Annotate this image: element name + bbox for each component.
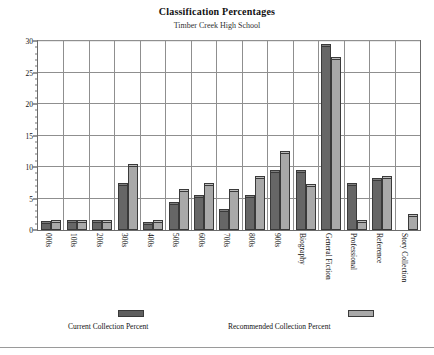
bar-front-face: [118, 185, 128, 230]
bar-front-face: [270, 172, 280, 230]
bar-front-face: [331, 59, 341, 230]
x-axis-label: 500s: [171, 233, 180, 247]
bar-current: [194, 197, 204, 230]
plot-area: [37, 40, 421, 231]
x-axis-label: 200s: [95, 233, 104, 247]
bar-current: [321, 46, 331, 230]
bar-recommended: [128, 166, 138, 230]
x-axis-label: 900s: [273, 233, 282, 247]
bar-front-face: [153, 222, 163, 230]
bar-recommended: [229, 191, 239, 230]
gridline-vertical: [267, 41, 268, 230]
chart-legend: Current Collection PercentRecommended Co…: [0, 308, 434, 336]
bar-front-face: [77, 222, 87, 230]
bar-current: [143, 224, 153, 230]
gridline-vertical: [242, 41, 243, 230]
bar-front-face: [408, 216, 418, 230]
bar-recommended: [306, 186, 316, 230]
bar-current: [372, 180, 382, 230]
bar-current: [219, 211, 229, 230]
chart-container: Classification Percentages Timber Creek …: [0, 0, 434, 355]
bar-recommended: [331, 59, 341, 230]
y-axis-tick-label: 25: [26, 68, 34, 77]
gridline-horizontal: [38, 40, 420, 41]
gridline-horizontal: [38, 166, 420, 167]
bar-current: [270, 172, 280, 230]
bar-recommended: [382, 178, 392, 230]
bar-front-face: [41, 223, 51, 230]
bar-recommended: [280, 153, 290, 230]
x-axis-label: 400s: [146, 233, 155, 247]
bar-recommended: [77, 222, 87, 230]
bar-front-face: [204, 185, 214, 230]
gridline-vertical: [140, 41, 141, 230]
bar-front-face: [372, 180, 382, 230]
x-axis-label: 700s: [222, 233, 231, 247]
bar-front-face: [321, 46, 331, 230]
gridline-horizontal: [38, 103, 420, 104]
gridline-horizontal: [38, 135, 420, 136]
bar-current: [169, 204, 179, 230]
y-axis-tick-label: 10: [26, 163, 34, 172]
bar-front-face: [102, 222, 112, 230]
bar-front-face: [357, 222, 367, 230]
bar-current: [92, 222, 102, 230]
bar-front-face: [347, 185, 357, 230]
x-axis-label: Reference: [375, 233, 384, 263]
x-axis-label: 000s: [44, 233, 53, 247]
x-axis-label: 100s: [69, 233, 78, 247]
bar-front-face: [255, 178, 265, 230]
bar-recommended: [153, 222, 163, 230]
bar-current: [67, 222, 77, 230]
x-axis-label: Professional: [349, 233, 358, 270]
gridline-vertical: [344, 41, 345, 230]
bar-current: [296, 172, 306, 230]
bar-recommended: [408, 216, 418, 230]
gridline-vertical: [165, 41, 166, 230]
gridline-vertical: [318, 41, 319, 230]
bar-recommended: [51, 222, 61, 230]
chart-subtitle: Timber Creek High School: [0, 21, 434, 30]
bar-front-face: [51, 222, 61, 230]
bar-front-face: [194, 197, 204, 230]
bar-front-face: [219, 211, 229, 230]
legend-label: Recommended Collection Percent: [228, 322, 330, 331]
gridline-vertical: [216, 41, 217, 230]
bottom-divider: [0, 347, 434, 348]
bar-front-face: [143, 224, 153, 230]
gridline-vertical: [369, 41, 370, 230]
bar-front-face: [169, 204, 179, 230]
gridline-horizontal: [38, 72, 420, 73]
legend-swatch: [348, 310, 374, 317]
y-axis-tick-label: 20: [26, 100, 34, 109]
chart-title: Classification Percentages: [0, 6, 434, 17]
x-axis-label: 600s: [197, 233, 206, 247]
bar-current: [118, 185, 128, 230]
bar-front-face: [296, 172, 306, 230]
x-axis-label: General Fiction: [324, 233, 333, 280]
bar-current: [245, 197, 255, 230]
x-axis-label: Story Collection: [400, 233, 409, 282]
bar-front-face: [179, 191, 189, 230]
bar-front-face: [245, 197, 255, 230]
gridline-vertical: [63, 41, 64, 230]
y-axis-tick-label: 30: [26, 37, 34, 46]
bar-current: [347, 185, 357, 230]
x-axis-label: 800s: [247, 233, 256, 247]
bar-front-face: [382, 178, 392, 230]
y-axis: 051015202530: [0, 40, 37, 230]
bar-front-face: [128, 166, 138, 230]
bar-front-face: [67, 222, 77, 230]
x-axis-label: 300s: [120, 233, 129, 247]
bar-front-face: [92, 222, 102, 230]
y-axis-tick-label: 15: [26, 131, 34, 140]
bar-recommended: [255, 178, 265, 230]
bar-recommended: [357, 222, 367, 230]
bar-current: [41, 223, 51, 230]
bar-front-face: [229, 191, 239, 230]
legend-swatch: [118, 310, 144, 317]
legend-label: Current Collection Percent: [68, 322, 148, 331]
bar-front-face: [280, 153, 290, 230]
gridline-vertical: [293, 41, 294, 230]
gridline-vertical: [114, 41, 115, 230]
